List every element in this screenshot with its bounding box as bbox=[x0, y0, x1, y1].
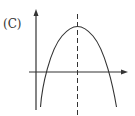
x-axis bbox=[29, 70, 128, 75]
y-axis bbox=[34, 9, 39, 110]
parabola-curve bbox=[41, 27, 117, 108]
x-axis-arrow-icon bbox=[121, 70, 128, 75]
graph-canvas bbox=[0, 0, 135, 116]
y-axis-arrow-icon bbox=[34, 9, 39, 16]
parabola-figure: (C) bbox=[0, 0, 135, 116]
